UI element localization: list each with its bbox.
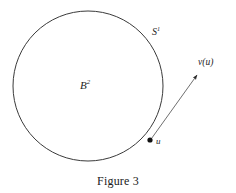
figure-caption: Figure 3: [0, 174, 236, 189]
interior-region-label-base: B: [80, 79, 87, 91]
vector-label: v(u): [198, 58, 213, 68]
boundary-circle-label-superscript: 1: [157, 25, 160, 32]
figure-container: B2 S1 u v(u) Figure 3: [0, 0, 236, 193]
vector-v-of-u-shaft: [152, 75, 198, 139]
figure-drawing-canvas: [0, 0, 236, 193]
boundary-point-label: u: [156, 137, 161, 146]
interior-region-label-superscript: 2: [87, 78, 90, 85]
boundary-point-u-dot: [147, 137, 152, 142]
interior-region-label: B2: [80, 80, 90, 91]
boundary-circle-label: S1: [152, 27, 160, 37]
